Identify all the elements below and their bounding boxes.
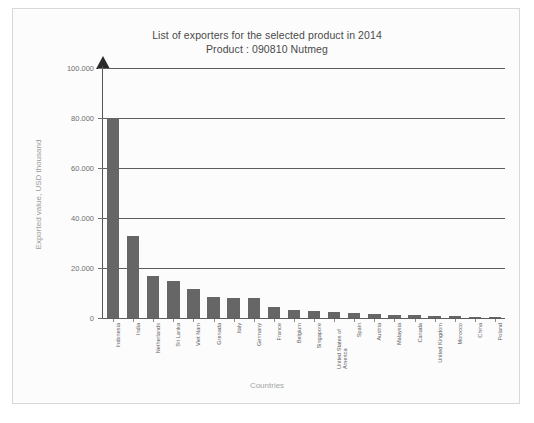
- gridline: [103, 218, 505, 219]
- x-tick-label: Austria: [376, 323, 382, 340]
- bar: [428, 316, 440, 318]
- bar: [167, 281, 179, 318]
- x-tick-mark: [415, 319, 416, 322]
- chart-page: List of exporters for the selected produ…: [0, 0, 534, 423]
- plot-area: [103, 68, 505, 318]
- chart-title: List of exporters for the selected produ…: [0, 28, 534, 42]
- y-tick-mark: [98, 318, 103, 319]
- y-tick-label: 20.000: [48, 264, 94, 273]
- bar: [449, 316, 461, 318]
- y-axis-title: Exported value, USD thousand: [34, 105, 43, 285]
- bar: [187, 289, 199, 318]
- bar: [227, 298, 239, 318]
- x-tick-label: Spain: [356, 323, 362, 337]
- bar: [207, 297, 219, 318]
- x-tick-label: Italy: [236, 323, 242, 333]
- x-tick-mark: [214, 319, 215, 322]
- y-tick-label: 80.000: [48, 114, 94, 123]
- x-tick-label: Grenada: [216, 323, 222, 345]
- x-tick-mark: [354, 319, 355, 322]
- x-tick-mark: [394, 319, 395, 322]
- bar: [368, 314, 380, 318]
- bar: [328, 312, 340, 318]
- x-tick-mark: [113, 319, 114, 322]
- y-tick-label: 0: [48, 314, 94, 323]
- x-tick-mark: [234, 319, 235, 322]
- x-tick-mark: [294, 319, 295, 322]
- x-tick-label: Belgium: [296, 323, 302, 343]
- x-tick-mark: [153, 319, 154, 322]
- gridline: [103, 118, 505, 119]
- y-tick-label: 100.000: [48, 64, 94, 73]
- bar: [408, 315, 420, 318]
- bar: [308, 311, 320, 319]
- bar: [348, 313, 360, 319]
- x-tick-mark: [495, 319, 496, 322]
- y-tick-label: 60.000: [48, 164, 94, 173]
- x-tick-label: Canada: [417, 323, 423, 343]
- chart-subtitle: Product : 090810 Nutmeg: [0, 42, 534, 56]
- x-axis-title: Countries: [0, 381, 534, 390]
- x-tick-mark: [173, 319, 174, 322]
- x-tick-mark: [193, 319, 194, 322]
- bar: [147, 276, 159, 318]
- x-axis-line: [103, 318, 505, 319]
- x-tick-label: Singapore: [316, 323, 322, 349]
- bar: [288, 310, 300, 318]
- x-tick-label: Germany: [256, 323, 262, 346]
- bar: [388, 315, 400, 318]
- bar: [469, 317, 481, 319]
- x-tick-mark: [475, 319, 476, 322]
- gridline: [103, 68, 505, 69]
- x-tick-label: France: [276, 323, 282, 340]
- gridline: [103, 268, 505, 269]
- x-tick-mark: [455, 319, 456, 322]
- x-tick-label: United Kingdom: [437, 323, 443, 363]
- bar: [248, 298, 260, 318]
- x-tick-mark: [254, 319, 255, 322]
- x-tick-mark: [274, 319, 275, 322]
- bar: [127, 236, 139, 319]
- gridline: [103, 168, 505, 169]
- x-tick-label: Malaysia: [396, 323, 402, 345]
- bar: [489, 317, 501, 318]
- x-tick-label: Morocco: [457, 323, 463, 344]
- y-tick-label: 40.000: [48, 214, 94, 223]
- x-tick-label: Poland: [497, 323, 503, 340]
- x-tick-label: Indonesia: [115, 323, 121, 347]
- bar: [268, 307, 280, 319]
- x-tick-mark: [334, 319, 335, 322]
- x-tick-label: Sri Lanka: [175, 323, 181, 347]
- x-tick-label: India: [135, 323, 141, 335]
- x-tick-label: China: [477, 323, 483, 338]
- x-tick-mark: [314, 319, 315, 322]
- x-tick-label: Viet Nam: [195, 323, 201, 346]
- x-tick-mark: [374, 319, 375, 322]
- bar: [107, 118, 119, 318]
- x-tick-mark: [133, 319, 134, 322]
- x-tick-label: United States of America: [336, 323, 348, 369]
- x-tick-mark: [435, 319, 436, 322]
- x-tick-label: Netherlands: [155, 323, 161, 353]
